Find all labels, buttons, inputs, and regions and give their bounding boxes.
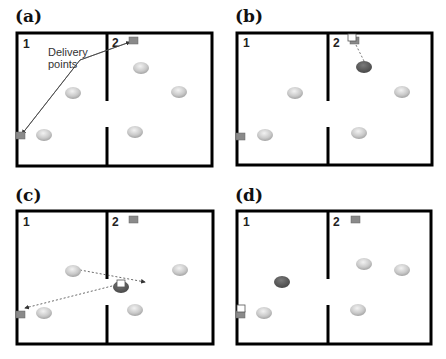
- robot-icon: [237, 305, 245, 312]
- building-outline: [237, 211, 431, 344]
- room-1-label: 1: [23, 215, 30, 229]
- delivery-point: [129, 216, 138, 223]
- disk: [351, 127, 367, 139]
- delivery-point: [16, 132, 25, 139]
- building-outline: [17, 33, 212, 166]
- robot-path: [80, 270, 145, 282]
- panel-d: (d) 1 2: [235, 185, 431, 344]
- disk: [287, 87, 303, 99]
- disk: [133, 62, 149, 74]
- annotation-text: Delivery: [48, 46, 88, 58]
- disk: [65, 265, 81, 277]
- room-1-label: 1: [23, 37, 30, 51]
- robot-icon: [348, 34, 356, 41]
- disk: [127, 126, 143, 138]
- panel-label: (b): [235, 6, 263, 26]
- disk: [127, 304, 143, 316]
- room-1-label: 1: [243, 36, 250, 50]
- panel-label: (c): [15, 185, 41, 205]
- disk: [171, 86, 187, 98]
- room-2-label: 2: [333, 215, 340, 229]
- disk-carried: [356, 61, 372, 73]
- building-outline: [237, 33, 432, 165]
- delivery-point: [16, 311, 25, 318]
- delivery-point: [351, 216, 360, 223]
- disk: [356, 258, 372, 270]
- room-1-label: 1: [243, 215, 250, 229]
- disk-delivered: [274, 276, 290, 288]
- panel-b: (b) 1 2: [235, 6, 432, 165]
- disk: [36, 307, 52, 319]
- disk: [257, 129, 273, 141]
- disk: [350, 304, 366, 316]
- disk: [394, 86, 410, 98]
- robot-icon: [117, 280, 125, 287]
- disk: [394, 264, 410, 276]
- room-2-label: 2: [333, 36, 340, 50]
- panel-label: (d): [235, 185, 263, 205]
- delivery-point: [236, 133, 245, 140]
- disk: [36, 129, 52, 141]
- panel-c: (c) 1 2: [15, 185, 213, 344]
- disk: [65, 87, 81, 99]
- panel-a: (a) 1 2 Delivery points: [15, 6, 212, 166]
- robot-path: [356, 45, 364, 61]
- robot-path: [25, 285, 116, 308]
- disk: [256, 307, 272, 319]
- disk: [172, 264, 188, 276]
- delivery-point: [129, 37, 138, 44]
- room-2-label: 2: [112, 215, 119, 229]
- building-outline: [17, 211, 213, 344]
- panel-label: (a): [15, 6, 42, 26]
